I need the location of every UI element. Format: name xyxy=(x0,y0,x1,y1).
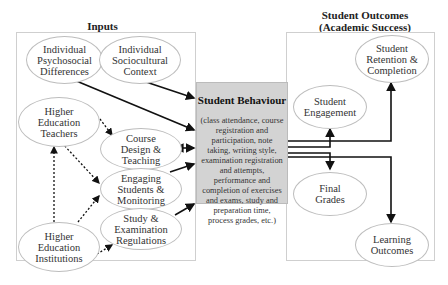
arrow-behaviour-engagement xyxy=(288,129,330,147)
node-course-design: Course Design & Teaching xyxy=(100,128,182,170)
node-sociocultural-label: Individual Sociocultural Context xyxy=(112,44,168,77)
node-higher-education-teachers: Higher Education Teachers xyxy=(18,97,100,147)
arrow-engaging-behaviour xyxy=(170,164,194,172)
node-psychosocial-differences: Individual Psychosocial Differences xyxy=(26,36,103,84)
node-study-regulations: Study & Examination Regulations xyxy=(100,208,182,250)
node-teachers-label: Higher Education Teachers xyxy=(38,106,81,139)
arrow-institutions-engaging xyxy=(78,196,99,222)
node-course-design-label: Course Design & Teaching xyxy=(121,133,162,166)
arrow-teachers-course xyxy=(100,119,112,135)
arrow-behaviour-grades xyxy=(288,153,330,169)
node-student-retention: Student Retention & Completion xyxy=(355,35,429,83)
node-engagement-label: Student Engagement xyxy=(304,96,356,118)
node-retention-label: Student Retention & Completion xyxy=(366,43,418,76)
node-sociocultural-context: Individual Sociocultural Context xyxy=(99,36,181,84)
node-student-engagement: Student Engagement xyxy=(293,85,367,129)
node-learning-label: Learning Outcomes xyxy=(371,234,414,256)
node-psychosocial-label: Individual Psychosocial Differences xyxy=(37,44,92,77)
arrow-regulations-behaviour xyxy=(175,204,194,215)
node-grades-label: Final Grades xyxy=(315,183,345,205)
node-higher-education-institutions: Higher Education Institutions xyxy=(18,222,100,272)
arrow-teachers-engaging xyxy=(62,143,99,183)
node-regulations-label: Study & Examination Regulations xyxy=(114,213,168,246)
node-learning-outcomes: Learning Outcomes xyxy=(355,223,429,267)
node-engaging-students: Engaging Students & Monitoring xyxy=(100,168,182,210)
node-institutions-label: Higher Education Institutions xyxy=(35,231,82,264)
node-final-grades: Final Grades xyxy=(293,172,367,216)
node-engaging-label: Engaging Students & Monitoring xyxy=(117,173,165,206)
